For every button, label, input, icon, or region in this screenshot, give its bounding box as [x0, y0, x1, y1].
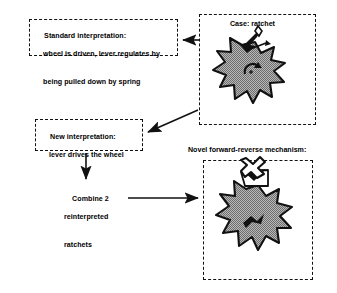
forward-reverse-ratchet-icon — [216, 157, 292, 250]
diagram-canvas: Standard interpretation: wheel is driven… — [0, 0, 337, 293]
bowtie-pivot-icon — [241, 157, 265, 178]
arrow-case-to-new — [148, 110, 198, 132]
ratchet-wheel-icon — [213, 26, 285, 103]
diagram-vector-layer — [0, 0, 337, 293]
